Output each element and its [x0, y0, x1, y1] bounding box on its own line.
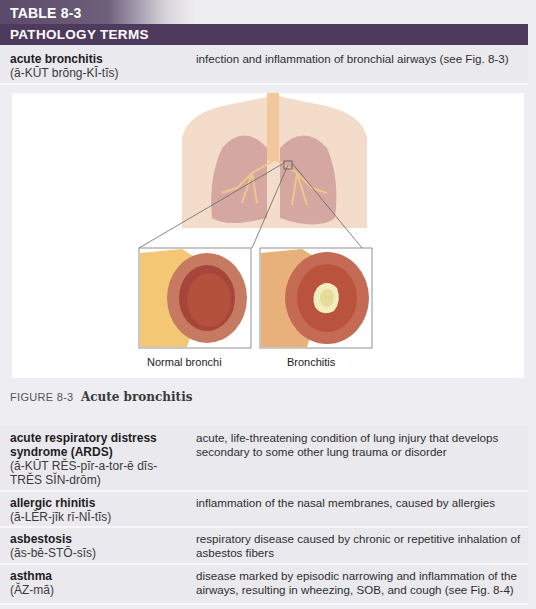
term-pronunciation: (ā-KŪT brŏng-KĪ-tĭs) [10, 66, 118, 80]
term-name: asbestosis [10, 532, 96, 546]
term-pronunciation: (ăs-bĕ-STŌ-sĭs) [10, 546, 96, 560]
figure-caption: FIGURE 8-3 Acute bronchitis [10, 390, 192, 404]
term-definition: acute, life-threatening condition of lun… [196, 431, 521, 459]
term-name: acute bronchitis [10, 52, 118, 66]
term-definition: respiratory disease caused by chronic or… [196, 532, 521, 560]
term-definition: inflammation of the nasal membranes, cau… [196, 496, 521, 510]
lungs-bronchi-illustration [12, 93, 524, 378]
figure-number: FIGURE 8-3 [10, 391, 74, 403]
term-definition: disease marked by episodic narrowing and… [196, 569, 521, 597]
term-definition: infection and inflammation of bronchial … [196, 52, 521, 66]
term-name: acute respiratory distress syndrome (ARD… [10, 431, 180, 459]
normal-bronchi-label: Normal bronchi [147, 356, 222, 368]
term-pronunciation: (ă-LĔR-jĭk rī-NĪ-tĭs) [10, 510, 111, 524]
figure-title: Acute bronchitis [81, 390, 193, 404]
term-name: allergic rhinitis [10, 496, 111, 510]
table-row: asbestosis (ăs-bĕ-STŌ-sĭs) respiratory d… [0, 528, 528, 565]
table-row: asthma (ĂZ-mă) disease marked by episodi… [0, 565, 528, 605]
table-row: allergic rhinitis (ă-LĔR-jĭk rī-NĪ-tĭs) … [0, 492, 528, 528]
table-number-label: TABLE 8-3 [0, 0, 195, 24]
table-title: PATHOLOGY TERMS [0, 24, 528, 45]
term-pronunciation: (ă-KŪT RĔS-pĭr-a-tor-ē dĭs-TRĔS SĬN-drōm… [10, 459, 180, 487]
table-row: acute bronchitis (ā-KŪT brŏng-KĪ-tĭs) in… [0, 45, 528, 85]
term-pronunciation: (ĂZ-mă) [10, 583, 54, 597]
term-name: asthma [10, 569, 54, 583]
figure-illustration: Normal bronchi Bronchitis [12, 93, 524, 378]
table-row: acute respiratory distress syndrome (ARD… [0, 426, 528, 492]
bronchitis-label: Bronchitis [287, 356, 335, 368]
